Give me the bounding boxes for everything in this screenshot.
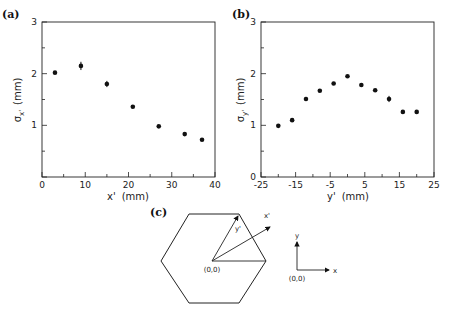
y-tick-label: 3 <box>250 17 256 27</box>
data-point <box>156 124 161 129</box>
panel-a-x-ticks: 010203040 <box>39 172 221 190</box>
y-tick-label: 2 <box>250 69 256 79</box>
panel-b-plot-frame <box>261 22 434 177</box>
panel-b-y-ticks: 0123 <box>250 17 266 182</box>
panel-c-label: (c) <box>150 206 167 219</box>
panel-b-chart: (b) 0123 -25-15-551525 y'(mm) σy'(mm) <box>232 8 440 202</box>
panel-a-data-points <box>53 62 205 142</box>
x-tick-label: 25 <box>428 180 439 190</box>
x-tick-label: 40 <box>209 180 221 190</box>
y-tick-label: 2 <box>31 69 37 79</box>
y-tick-label: 1 <box>31 120 37 130</box>
data-point <box>79 64 84 69</box>
hexagon-origin-label: (0,0) <box>204 266 221 274</box>
x-tick-label: -15 <box>288 180 303 190</box>
x-tick-label: -5 <box>326 180 335 190</box>
panel-a-x-axis-label: x'(mm) <box>107 191 149 202</box>
panel-b-x-ticks: -25-15-551525 <box>254 172 440 190</box>
panel-a-chart: (a) 123 010203040 x'(mm) σx'(mm) <box>2 8 221 202</box>
x-tick-label: 20 <box>123 180 135 190</box>
data-point <box>304 97 309 102</box>
data-point <box>345 74 350 79</box>
panel-a-y-ticks: 123 <box>31 17 47 177</box>
data-point <box>414 110 419 115</box>
data-point <box>105 82 110 87</box>
x-tick-label: 10 <box>80 180 92 190</box>
x-tick-label: 15 <box>394 180 405 190</box>
data-point <box>182 132 187 137</box>
axes-origin-label: (0,0) <box>289 275 306 283</box>
x-tick-label: 30 <box>166 180 178 190</box>
y-tick-label: 1 <box>250 120 256 130</box>
data-point <box>359 83 364 88</box>
x-tick-label: 0 <box>39 180 45 190</box>
x-tick-label: -25 <box>254 180 269 190</box>
axes-y-label: y <box>295 232 299 240</box>
panel-a-plot-frame <box>42 22 215 177</box>
panel-b-y-axis-label: σy'(mm) <box>235 78 249 123</box>
data-point <box>373 88 378 93</box>
panel-a-y-axis-label: σx'(mm) <box>12 78 26 123</box>
y-prime-label: y' <box>235 225 241 233</box>
data-point <box>53 70 58 75</box>
data-point <box>318 88 323 93</box>
data-point <box>331 81 336 86</box>
data-point <box>131 104 136 109</box>
data-point <box>387 97 392 102</box>
y-tick-label: 3 <box>31 17 37 27</box>
axes-x-label: x <box>333 267 337 275</box>
panel-b-data-points <box>276 74 419 128</box>
panel-b-label: (b) <box>232 8 250 21</box>
x-tick-label: 5 <box>362 180 368 190</box>
data-point <box>290 118 295 123</box>
panel-c-diagram: (c) (0,0) x' y' y x (0,0) <box>150 206 337 303</box>
panel-a-label: (a) <box>2 8 20 21</box>
figure: (a) 123 010203040 x'(mm) σx'(mm) (b) 012… <box>0 0 449 317</box>
data-point <box>200 138 205 143</box>
panel-b-x-axis-label: y'(mm) <box>327 191 369 202</box>
x-prime-label: x' <box>264 212 270 220</box>
data-point <box>401 110 406 115</box>
y-prime-arrow-icon <box>212 216 238 261</box>
data-point <box>276 124 281 129</box>
